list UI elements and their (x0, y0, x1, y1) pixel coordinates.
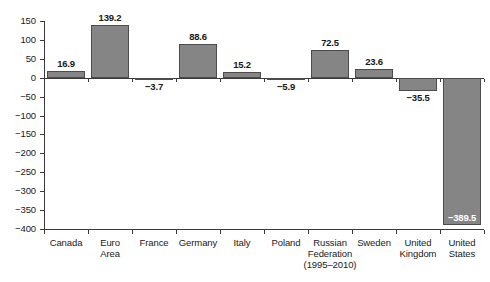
y-axis-tick-label: −100 (2, 111, 36, 121)
bar-value-label: −35.5 (389, 93, 447, 103)
zero-line-tick (352, 79, 353, 82)
y-axis-tick (40, 153, 44, 154)
bar (443, 78, 481, 225)
y-axis-tick (40, 172, 44, 173)
x-axis-category-label-line: United (432, 237, 490, 248)
y-axis-tick (40, 191, 44, 192)
y-axis-tick-label: −400 (2, 224, 36, 234)
bar (267, 78, 305, 80)
x-axis-tick (352, 230, 353, 234)
zero-line-tick (396, 79, 397, 82)
y-axis-tick-label: −250 (2, 167, 36, 177)
x-axis-tick (132, 230, 133, 234)
x-axis-tick (264, 230, 265, 234)
x-axis-tick (88, 230, 89, 234)
x-axis-tick (396, 230, 397, 234)
y-axis-tick (40, 40, 44, 41)
y-axis-tick-label: −300 (2, 186, 36, 196)
y-axis-tick (40, 21, 44, 22)
x-axis-tick (44, 230, 45, 234)
zero-line-tick (44, 79, 45, 82)
x-axis-category-label-line: States (432, 248, 490, 259)
y-axis-tick-label: 0 (2, 73, 36, 83)
bar (91, 25, 129, 78)
x-axis-tick (440, 230, 441, 234)
y-axis-tick-label: 50 (2, 54, 36, 64)
bar-value-label: 139.2 (81, 13, 139, 23)
y-axis-tick (40, 134, 44, 135)
bar-value-label: −5.9 (257, 82, 315, 92)
bar (135, 78, 173, 80)
zero-line-tick (484, 79, 485, 82)
bar-value-label: 88.6 (169, 32, 227, 42)
bar-value-label: −389.5 (433, 213, 490, 223)
x-axis-tick (176, 230, 177, 234)
x-axis-tick (220, 230, 221, 234)
y-axis-tick-label: −50 (2, 92, 36, 102)
y-axis-tick-label: −150 (2, 129, 36, 139)
zero-line-tick (220, 79, 221, 82)
x-axis-tick (308, 230, 309, 234)
bar (179, 44, 217, 78)
bar-value-label: 23.6 (345, 57, 403, 67)
y-axis-tick-label: 100 (2, 35, 36, 45)
y-axis-tick-label: 150 (2, 16, 36, 26)
y-axis-spine (44, 21, 45, 229)
bar (47, 71, 85, 78)
x-axis-category-label-line: Area (80, 248, 140, 259)
bar (223, 72, 261, 78)
x-axis-category-label-line: Federation (300, 248, 360, 259)
x-axis-tick (484, 230, 485, 234)
bar-value-label: −3.7 (125, 82, 183, 92)
x-axis-category-label-line: (1995–2010) (300, 259, 360, 270)
y-axis-tick (40, 210, 44, 211)
bar (399, 78, 437, 91)
y-axis-tick (40, 116, 44, 117)
y-axis-tick (40, 97, 44, 98)
bar (311, 50, 349, 78)
zero-line-tick (440, 79, 441, 82)
y-axis-tick-label: −350 (2, 205, 36, 215)
bar-value-label: 72.5 (301, 38, 359, 48)
bar-value-label: 16.9 (37, 59, 95, 69)
bar-chart: 150100500−50−100−150−200−250−300−350−400… (0, 0, 490, 282)
bar-value-label: 15.2 (213, 60, 271, 70)
bar (355, 69, 393, 78)
x-axis-category-label: UnitedStates (432, 237, 490, 259)
y-axis-tick-label: −200 (2, 148, 36, 158)
zero-line-tick (88, 79, 89, 82)
